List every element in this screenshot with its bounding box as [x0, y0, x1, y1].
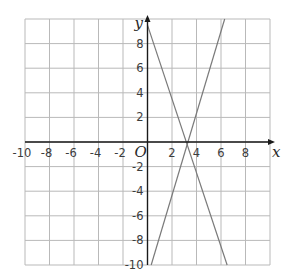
- y-tick-label: -10: [125, 258, 144, 272]
- x-tick-label: -10: [13, 146, 32, 160]
- origin-label: O: [135, 143, 147, 161]
- x-tick-label: -8: [41, 146, 52, 160]
- tick-labels: -10-8-6-4-224688642-2-4-6-8-10: [13, 37, 250, 272]
- y-tick-label: 6: [136, 61, 143, 75]
- x-tick-label: -2: [114, 146, 125, 160]
- y-tick-label: -8: [132, 233, 143, 247]
- y-tick-label: -4: [132, 184, 143, 198]
- y-tick-label: 8: [136, 37, 143, 51]
- y-tick-label: -2: [132, 160, 143, 174]
- coordinate-plane: -10-8-6-4-224688642-2-4-6-8-10 x y O: [0, 0, 294, 276]
- x-axis-label: x: [272, 143, 281, 161]
- y-tick-label: 4: [136, 86, 143, 100]
- x-tick-label: 8: [242, 146, 249, 160]
- y-tick-label: 2: [136, 110, 143, 124]
- x-tick-label: 4: [193, 146, 200, 160]
- x-tick-label: -4: [90, 146, 101, 160]
- axes: [25, 15, 275, 265]
- y-axis-label: y: [134, 14, 144, 32]
- y-tick-label: -6: [132, 209, 143, 223]
- x-tick-label: 6: [217, 146, 224, 160]
- x-tick-label: 2: [168, 146, 175, 160]
- falling-line: [148, 25, 228, 265]
- x-tick-label: -6: [65, 146, 76, 160]
